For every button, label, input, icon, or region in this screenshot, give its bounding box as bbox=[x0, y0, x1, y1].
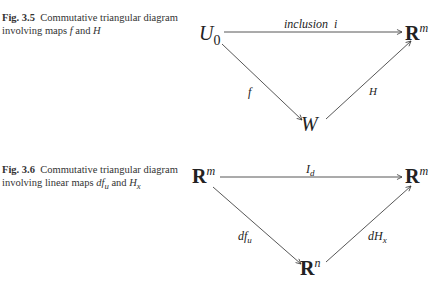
commutative-diagrams: U0 Rm W inclusion i f H Rm Rm Rn Id dfu bbox=[0, 0, 440, 289]
figure-3-6-diagram: Rm Rm Rn Id dfu dHx bbox=[192, 162, 428, 279]
node-w: W bbox=[301, 113, 320, 135]
arrow-dhx bbox=[326, 186, 411, 262]
label-dfu: dfu bbox=[238, 229, 252, 245]
node-rn: Rn bbox=[300, 256, 320, 279]
arrow-h bbox=[326, 41, 411, 119]
figure-3-5-diagram: U0 Rm W inclusion i f H bbox=[199, 17, 428, 135]
label-dhx: dHx bbox=[368, 229, 387, 245]
arrow-f bbox=[222, 44, 302, 120]
node-u0: U0 bbox=[199, 22, 220, 48]
arrow-dfu bbox=[213, 187, 301, 264]
node-rm-left: Rm bbox=[192, 164, 215, 187]
label-f: f bbox=[248, 85, 253, 99]
label-id: Id bbox=[305, 162, 315, 178]
label-h: H bbox=[368, 85, 378, 97]
node-rm-right: Rm bbox=[405, 164, 428, 187]
label-inclusion: inclusion i bbox=[284, 17, 337, 31]
node-rm: Rm bbox=[405, 21, 428, 44]
